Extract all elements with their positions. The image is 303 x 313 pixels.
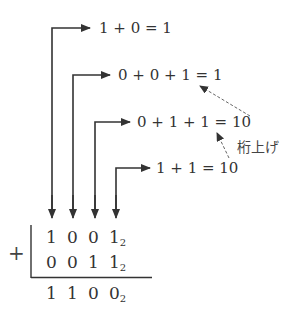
digit: 1 [88, 254, 109, 271]
plus-operator: + [8, 243, 25, 263]
digit: 0 [88, 285, 109, 302]
equation-4: 1 + 1 = 10 [156, 161, 238, 176]
digit: 1 [109, 227, 120, 247]
addend-row-1: 10012 [46, 229, 126, 248]
digit: 1 [46, 285, 67, 302]
equation-3: 0 + 1 + 1 = 10 [137, 115, 251, 130]
arrow-column-1 [52, 28, 90, 218]
equation-1: 1 + 0 = 1 [99, 21, 172, 36]
base-subscript: 2 [120, 293, 126, 304]
arrow-column-2 [73, 75, 110, 218]
arrow-column-3 [95, 122, 130, 218]
addend-row-2: 00112 [46, 254, 126, 273]
arrow-column-4 [116, 168, 150, 218]
sum-row: 11002 [46, 285, 126, 304]
equation-2: 0 + 0 + 1 = 1 [118, 68, 223, 83]
digit: 0 [88, 229, 109, 246]
digit: 0 [109, 283, 120, 303]
digit: 0 [67, 229, 88, 246]
digit: 0 [67, 254, 88, 271]
carry-arrow-2 [217, 133, 229, 158]
digit: 0 [46, 254, 67, 271]
digit: 1 [67, 285, 88, 302]
digit: 1 [46, 229, 67, 246]
digit: 1 [109, 252, 120, 272]
base-subscript: 2 [120, 237, 126, 248]
base-subscript: 2 [120, 262, 126, 273]
carry-arrow-1 [200, 86, 250, 116]
carry-label: 桁上げ [237, 140, 279, 154]
